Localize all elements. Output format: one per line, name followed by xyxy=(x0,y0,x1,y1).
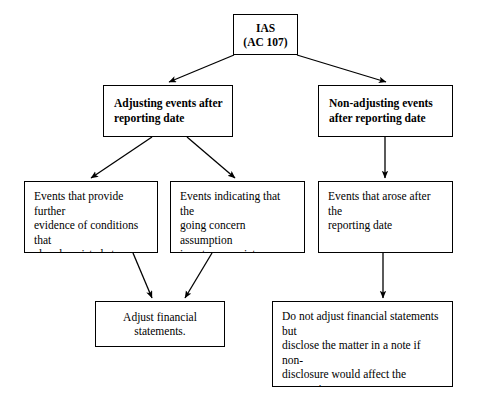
node-adjusting-events-label: Adjusting events after reporting date xyxy=(104,96,232,126)
node-further-evidence-label: Events that provide further evidence of … xyxy=(25,182,157,253)
edge-adjusting-to-goingconcern xyxy=(187,137,235,178)
node-further-evidence[interactable]: Events that provide further evidence of … xyxy=(24,181,158,253)
edge-evidence-to-adjustfs xyxy=(133,253,152,298)
node-going-concern-label: Events indicating that the going concern… xyxy=(171,182,304,253)
node-adjust-financial-statements-label: Adjust financial statements. xyxy=(96,310,224,338)
node-non-adjusting-events[interactable]: Non-adjusting events after reporting dat… xyxy=(318,85,453,137)
node-do-not-adjust-disclose[interactable]: Do not adjust financial statements but d… xyxy=(272,301,453,387)
node-do-not-adjust-disclose-label: Do not adjust financial statements but d… xyxy=(273,302,452,387)
edge-root-to-nonadjusting xyxy=(297,55,386,82)
edge-goingconcern-to-adjustfs xyxy=(185,253,212,298)
node-non-adjusting-events-label: Non-adjusting events after reporting dat… xyxy=(319,96,452,126)
node-events-arose-after-label: Events that arose after the reporting da… xyxy=(319,182,452,233)
node-ias-root[interactable]: IAS (AC 107) xyxy=(233,14,298,55)
node-adjust-financial-statements[interactable]: Adjust financial statements. xyxy=(95,301,225,347)
node-going-concern[interactable]: Events indicating that the going concern… xyxy=(170,181,305,253)
node-ias-root-label: IAS (AC 107) xyxy=(234,21,297,49)
flowchart-diagram: IAS (AC 107) Adjusting events after repo… xyxy=(0,0,478,408)
edge-adjusting-to-evidence xyxy=(91,137,152,178)
node-events-arose-after[interactable]: Events that arose after the reporting da… xyxy=(318,181,453,253)
node-adjusting-events[interactable]: Adjusting events after reporting date xyxy=(103,85,233,137)
edge-root-to-adjusting xyxy=(169,55,234,82)
